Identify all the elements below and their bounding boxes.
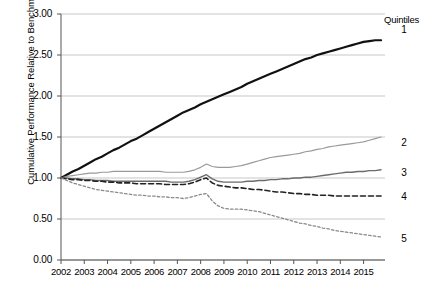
plot-area [0, 0, 427, 288]
legend-item-3: 3 [397, 167, 411, 178]
series-line-2 [61, 137, 381, 178]
gridlines [61, 14, 385, 260]
legend-item-2: 2 [397, 137, 411, 148]
chart-container: Cumulative Performance Relative to Bench… [0, 0, 427, 288]
legend-item-4: 4 [397, 191, 411, 202]
legend-item-1: 1 [397, 24, 411, 35]
data-series-layer [61, 40, 381, 237]
series-line-1 [61, 40, 381, 178]
series-line-5 [61, 178, 381, 237]
legend-item-5: 5 [397, 233, 411, 244]
